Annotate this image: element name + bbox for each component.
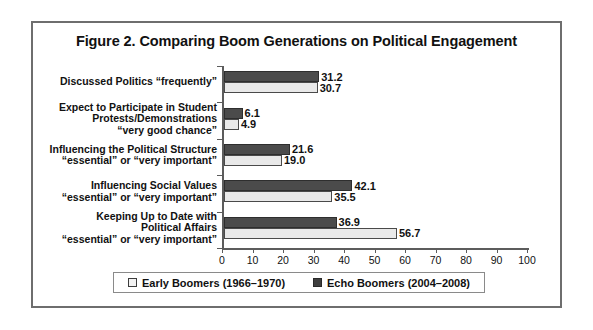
bar-value-label: 56.7: [399, 227, 420, 239]
bar-value-label: 35.5: [334, 191, 355, 203]
x-tick: [497, 248, 498, 253]
x-tick: [314, 248, 315, 253]
x-tick-label: 50: [369, 254, 381, 266]
bar-echo-boomers: 6.1: [224, 108, 243, 119]
x-tick-label: 80: [460, 254, 472, 266]
x-tick: [436, 248, 437, 253]
cat-label-line: “essential” or “very important”: [62, 191, 217, 203]
bar-group: Expect to Participate in StudentProtests…: [224, 102, 529, 138]
x-tick-label: 40: [338, 254, 350, 266]
legend-swatch-echo-boomers: [313, 278, 322, 287]
bar-early-boomers: 56.7: [224, 228, 397, 239]
x-tick-label: 20: [277, 254, 289, 266]
bar-echo-boomers: 31.2: [224, 71, 319, 82]
x-tick: [283, 248, 284, 253]
bar-value-label: 42.1: [354, 180, 375, 192]
x-tick-label: 60: [399, 254, 411, 266]
bar-value-label: 4.9: [241, 118, 256, 130]
cat-label-line: Expect to Participate in Student: [59, 101, 217, 113]
y-tick: [217, 66, 222, 67]
y-tick: [217, 248, 222, 249]
x-tick: [344, 248, 345, 253]
bar-group: Discussed Politics “frequently”31.230.7: [224, 66, 529, 102]
y-tick: [217, 139, 222, 140]
category-label: Influencing Social Values“essential” or …: [62, 180, 217, 203]
x-tick: [405, 248, 406, 253]
bar-group: Influencing the Political Structure“esse…: [224, 139, 529, 175]
x-tick: [527, 248, 528, 253]
x-tick: [222, 248, 223, 253]
y-tick: [217, 212, 222, 213]
bar-echo-boomers: 36.9: [224, 217, 337, 228]
legend-item: Echo Boomers (2004–2008): [313, 277, 470, 289]
x-tick-label: 90: [491, 254, 503, 266]
bar-value-label: 30.7: [320, 82, 341, 94]
cat-label-line: “very good chance”: [59, 124, 217, 136]
category-label: Keeping Up to Date withPolitical Affairs…: [62, 211, 217, 246]
x-tick-label: 70: [430, 254, 442, 266]
chart-legend: Early Boomers (1966–1970)Echo Boomers (2…: [113, 272, 485, 293]
bar-group: Keeping Up to Date withPolitical Affairs…: [224, 212, 529, 248]
legend-swatch-early-boomers: [128, 278, 137, 287]
bar-group: Influencing Social Values“essential” or …: [224, 175, 529, 211]
category-label: Influencing the Political Structure“esse…: [50, 143, 217, 166]
cat-label-line: “essential” or “very important”: [50, 155, 217, 167]
cat-label-line: Influencing Social Values: [62, 180, 217, 192]
y-tick: [217, 175, 222, 176]
x-tick: [466, 248, 467, 253]
cat-label-line: Influencing the Political Structure: [50, 143, 217, 155]
x-tick-label: 30: [308, 254, 320, 266]
x-tick: [253, 248, 254, 253]
bar-value-label: 19.0: [284, 154, 305, 166]
bar-early-boomers: 35.5: [224, 191, 332, 202]
y-tick: [217, 102, 222, 103]
plot-area: 0102030405060708090100 Discussed Politic…: [222, 66, 527, 248]
bar-value-label: 36.9: [339, 216, 360, 228]
x-tick-label: 0: [219, 254, 225, 266]
x-tick-label: 100: [518, 254, 536, 266]
x-axis-line: [222, 248, 529, 250]
bar-early-boomers: 4.9: [224, 119, 239, 130]
category-label: Expect to Participate in StudentProtests…: [59, 101, 217, 136]
category-label: Discussed Politics “frequently”: [60, 76, 217, 88]
x-tick: [375, 248, 376, 253]
bar-early-boomers: 19.0: [224, 155, 282, 166]
chart-title: Figure 2. Comparing Boom Generations on …: [33, 33, 560, 49]
bar-echo-boomers: 42.1: [224, 180, 352, 191]
bar-early-boomers: 30.7: [224, 82, 318, 93]
x-tick-label: 10: [247, 254, 259, 266]
bar-echo-boomers: 21.6: [224, 144, 290, 155]
cat-label-line: Discussed Politics “frequently”: [60, 76, 217, 88]
legend-label: Echo Boomers (2004–2008): [327, 277, 470, 289]
cat-label-line: “essential” or “very important”: [62, 234, 217, 246]
figure-frame: Figure 2. Comparing Boom Generations on …: [31, 21, 562, 308]
legend-item: Early Boomers (1966–1970): [128, 277, 285, 289]
cat-label-line: Keeping Up to Date with: [62, 211, 217, 223]
legend-label: Early Boomers (1966–1970): [142, 277, 285, 289]
